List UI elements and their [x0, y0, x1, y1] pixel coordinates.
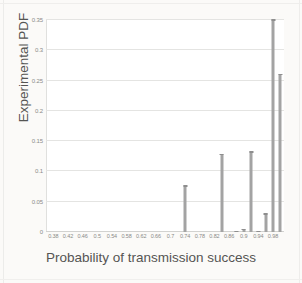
y-tick-label: 0.1: [35, 168, 43, 174]
x-tick-label: 0.82: [209, 234, 219, 240]
bar: [220, 154, 223, 232]
y-tick-label: 0.15: [32, 138, 43, 144]
bar-cap: [242, 229, 246, 231]
page-edge-top: [0, 3, 302, 4]
x-tick-label: 0.58: [121, 234, 131, 240]
y-tick-label: 0.35: [32, 17, 43, 23]
x-tick-label: 0.66: [151, 234, 161, 240]
bar: [235, 231, 238, 232]
gridline: [46, 231, 284, 232]
bar: [250, 151, 253, 232]
x-tick-label: 0.46: [77, 234, 87, 240]
x-tick-label: 0.9: [240, 234, 247, 240]
bar-cap: [220, 154, 224, 156]
gridline: [46, 170, 284, 171]
x-tick-label: 0.54: [107, 234, 117, 240]
gridline: [46, 49, 284, 50]
y-tick-label: 0.05: [32, 199, 43, 205]
gridline: [46, 201, 284, 202]
bar: [272, 19, 275, 232]
y-tick-label: 0.3: [35, 47, 43, 53]
x-tick-label: 0.42: [63, 234, 73, 240]
bar: [257, 231, 260, 232]
bar-cap: [249, 151, 253, 153]
gridline: [46, 140, 284, 141]
y-tick-label: 0.2: [35, 108, 43, 114]
bar: [184, 185, 187, 232]
page-edge-bottom: [0, 279, 302, 280]
x-tick-label: 0.86: [224, 234, 234, 240]
x-tick-label: 0.62: [136, 234, 146, 240]
x-tick-label: 0.98: [268, 234, 278, 240]
bar: [279, 74, 282, 232]
page-edge-left: [3, 0, 4, 283]
y-axis-title: Experimental PDF: [16, 0, 31, 143]
x-tick-label: 0.78: [195, 234, 205, 240]
y-tick-label: 0: [40, 229, 43, 235]
x-axis-title: Probability of transmission success: [0, 250, 302, 265]
plot-area: [46, 20, 284, 232]
bar-cap: [271, 19, 275, 21]
page-edge-right: [299, 0, 300, 283]
bar-cap: [234, 231, 238, 233]
gridline: [46, 80, 284, 81]
x-tick-label: 0.94: [253, 234, 263, 240]
bar-cap: [278, 74, 282, 76]
x-tick-label: 0.5: [94, 234, 101, 240]
gridline: [46, 110, 284, 111]
y-tick-label: 0.25: [32, 78, 43, 84]
x-tick-label: 0.38: [48, 234, 58, 240]
bar: [264, 213, 267, 232]
gridline: [46, 19, 284, 20]
bar-cap: [183, 185, 187, 187]
x-tick-label: 0.74: [180, 234, 190, 240]
x-tick-label: 0.7: [167, 234, 174, 240]
x-axis-ticks: 0.380.420.460.50.540.580.620.660.70.740.…: [46, 234, 284, 246]
bar: [242, 229, 245, 232]
chart-figure: 00.050.10.150.20.250.30.35 0.380.420.460…: [0, 0, 302, 283]
bar-cap: [264, 213, 268, 215]
